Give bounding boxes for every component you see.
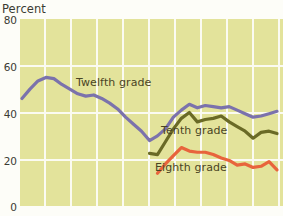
chart-container: Percent 80 60 40 20 0 Twelfth grade Tent… bbox=[0, 0, 283, 216]
y-tick-0: 0 bbox=[0, 202, 17, 212]
y-tick-40: 40 bbox=[0, 109, 17, 119]
y-tick-80: 80 bbox=[0, 15, 17, 25]
y-tick-20: 20 bbox=[0, 156, 17, 166]
series-label-twelfth-grade: Twelfth grade bbox=[76, 76, 151, 89]
series-label-tenth-grade: Tenth grade bbox=[161, 124, 227, 137]
series-label-eighth-grade: Eighth grade bbox=[155, 161, 227, 174]
y-tick-60: 60 bbox=[0, 62, 17, 72]
plot-area bbox=[20, 19, 283, 206]
series-lines bbox=[20, 19, 283, 206]
y-axis-title: Percent bbox=[2, 2, 46, 16]
